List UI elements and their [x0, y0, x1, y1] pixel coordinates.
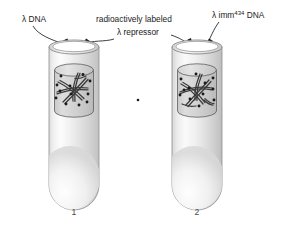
- repressor-dot: [188, 87, 191, 90]
- test-tube-2: 2: [164, 40, 224, 217]
- tube-1-opening: [53, 41, 95, 51]
- repressor-dot: [82, 73, 85, 76]
- tube-1-inner-cylinder-top: [55, 64, 94, 76]
- repressor-dot: [180, 78, 183, 81]
- label-imm434-suffix: DNA: [244, 10, 264, 20]
- repressor-dot: [65, 103, 68, 106]
- stray-speck: [137, 99, 140, 102]
- repressor-dot: [183, 89, 186, 92]
- repressor-dot: [212, 77, 215, 80]
- test-tube-1: 1: [40, 40, 100, 217]
- figure-canvas: λ DNA radioactively labeled λ repressor …: [0, 0, 300, 227]
- tube-1-bottom-highlight: [40, 146, 100, 210]
- label-radioactive-line1: radioactively labeled: [96, 14, 172, 24]
- tube-2-bottom-highlight: [164, 146, 224, 210]
- repressor-dot: [179, 94, 182, 97]
- repressor-dot: [60, 75, 63, 78]
- repressor-dot: [69, 85, 72, 88]
- repressor-dot: [212, 88, 215, 91]
- label-lambda-dna: λ DNA: [22, 14, 47, 24]
- tube-1-number: 1: [72, 207, 77, 217]
- repressor-dot: [213, 99, 216, 102]
- repressor-dot: [198, 105, 201, 108]
- repressor-dot: [56, 84, 59, 87]
- repressor-dot: [87, 93, 90, 96]
- repressor-dot: [86, 101, 89, 104]
- repressor-dot: [89, 80, 92, 83]
- repressor-dot: [59, 90, 62, 93]
- repressor-dot: [189, 98, 192, 101]
- repressor-dot: [78, 104, 81, 107]
- label-imm434-prefix: λ imm: [212, 10, 234, 20]
- label-imm434-dna: λ imm434 DNA: [212, 10, 265, 20]
- tube-2-number: 2: [195, 207, 200, 217]
- repressor-dot: [55, 97, 58, 100]
- figure-root: λ DNA radioactively labeled λ repressor …: [0, 0, 300, 227]
- repressor-dot: [202, 93, 205, 96]
- tube-2-opening: [176, 41, 218, 51]
- label-radioactive-line2: λ repressor: [117, 27, 159, 37]
- repressor-dot: [70, 93, 73, 96]
- repressor-dot: [204, 82, 207, 85]
- repressor-dot: [195, 73, 198, 76]
